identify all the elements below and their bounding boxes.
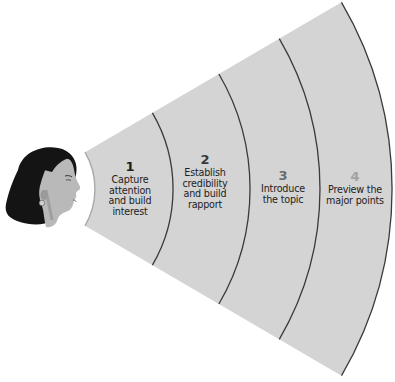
stage-1-line-1: Capture	[109, 175, 152, 186]
stage-2-line-1: Establish	[183, 168, 228, 179]
stage-3-label: 3 Introduce the topic	[261, 169, 305, 205]
stage-4-number: 4	[326, 170, 384, 184]
stage-3-line-2: the topic	[261, 195, 305, 206]
stage-3-number: 3	[261, 169, 305, 183]
stage-2-label: 2 Establish credibility and build rappor…	[183, 153, 228, 210]
stage-4-line-2: major points	[326, 196, 384, 207]
stage-4-line-1: Preview the	[326, 185, 384, 196]
stage-2-line-4: rapport	[183, 200, 228, 211]
stage-1-label: 1 Capture attention and build interest	[109, 160, 152, 217]
stage-1-number: 1	[109, 160, 152, 174]
speaker-head-icon	[6, 147, 81, 227]
stage-2-number: 2	[183, 153, 228, 167]
stage-4-label: 4 Preview the major points	[326, 170, 384, 206]
stage-1-line-4: interest	[109, 207, 152, 218]
stage-3-line-1: Introduce	[261, 184, 305, 195]
